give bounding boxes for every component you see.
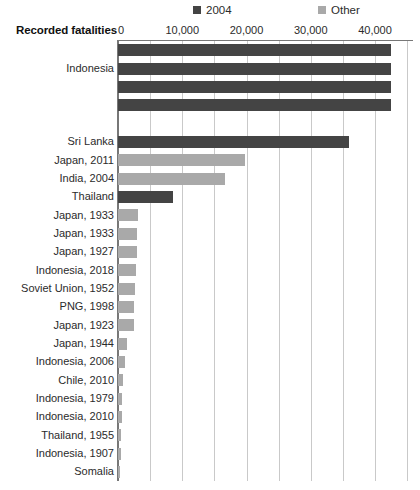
bar [118, 356, 125, 368]
category-label: Japan, 2011 [54, 155, 114, 166]
bar [118, 374, 123, 386]
x-tick-label: 10,000 [165, 24, 199, 36]
gridline [407, 41, 408, 481]
bar [118, 429, 121, 441]
category-label: Soviet Union, 1952 [21, 283, 114, 294]
category-label: Sri Lanka [68, 136, 114, 147]
x-axis-header: Recorded fatalities 010,00020,00030,0004… [0, 24, 420, 40]
category-label: Japan, 1923 [53, 320, 114, 331]
x-tick-label: 40,000 [358, 24, 392, 36]
bar [118, 319, 134, 331]
category-label: Indonesia [66, 63, 114, 74]
legend-entry-other: Other [318, 4, 360, 16]
bar [118, 173, 225, 185]
category-label: Thailand, 1955 [41, 430, 114, 441]
bar [118, 81, 391, 93]
bar [118, 209, 138, 221]
category-label: Thailand [72, 191, 114, 202]
bar [118, 228, 137, 240]
category-label: Chile, 2010 [58, 375, 114, 386]
bar [118, 136, 349, 148]
x-tick-label: 30,000 [294, 24, 328, 36]
bar [118, 246, 137, 258]
category-label: Japan, 1933 [53, 210, 114, 221]
legend-swatch-other [318, 6, 326, 14]
bar [118, 448, 121, 460]
category-label: Indonesia, 1907 [36, 448, 114, 459]
axis-top-rule [117, 40, 413, 41]
category-label: Japan, 1944 [53, 338, 114, 349]
bar [118, 191, 173, 203]
legend-label-other: Other [331, 4, 360, 16]
legend-swatch-2004 [193, 6, 201, 14]
category-axis-labels: IndonesiaSri LankaJapan, 2011India, 2004… [0, 41, 114, 481]
category-label: Indonesia, 2006 [36, 356, 114, 367]
category-label: Indonesia, 1979 [36, 393, 114, 404]
x-axis-title: Recorded fatalities [16, 24, 117, 36]
x-tick-label: 20,000 [230, 24, 264, 36]
bar [118, 393, 122, 405]
category-label: Japan, 1933 [53, 228, 114, 239]
bar [118, 63, 391, 75]
legend-label-2004: 2004 [206, 4, 232, 16]
chart-legend: 2004 Other [0, 4, 420, 22]
bar [118, 44, 391, 56]
legend-entry-2004: 2004 [193, 4, 232, 16]
bar [118, 283, 135, 295]
bar [118, 411, 122, 423]
bar [118, 154, 245, 166]
category-label: India, 2004 [60, 173, 114, 184]
category-label: Japan, 1927 [53, 246, 114, 257]
plot-area [118, 41, 413, 481]
category-label: Indonesia, 2018 [36, 265, 114, 276]
bar [118, 338, 127, 350]
bar [118, 264, 136, 276]
bar [118, 99, 391, 111]
bar [118, 301, 134, 313]
category-label: Somalia [74, 466, 114, 477]
category-label: Indonesia, 2010 [36, 411, 114, 422]
bar [118, 466, 120, 478]
fatalities-bar-chart: 2004 Other Recorded fatalities 010,00020… [0, 0, 420, 490]
category-label: PNG, 1998 [60, 301, 114, 312]
x-tick-label: 0 [118, 24, 124, 36]
